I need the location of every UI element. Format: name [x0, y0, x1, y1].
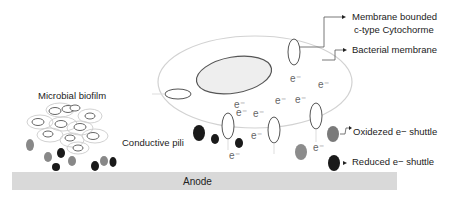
cytochrome-label-line1: Membrane bounded	[352, 11, 437, 22]
oxidized-shuttle-label: Oxidezed e− shuttle	[353, 126, 437, 137]
cytochrome-1	[222, 113, 234, 139]
arrowhead	[349, 126, 352, 130]
reduced-shuttle-legend	[328, 155, 340, 171]
anode-label: Anode	[183, 176, 212, 187]
electron: e⁻	[290, 73, 301, 84]
cytochrome-label-line2: c-type Cytochorme	[354, 24, 434, 35]
arrowhead	[343, 48, 347, 52]
cytochrome-3	[310, 103, 322, 129]
microbial-biofilm-label: Microbial biofilm	[38, 90, 106, 101]
electron: e⁻	[236, 107, 247, 118]
oxidized-shuttle	[295, 144, 307, 160]
electron: e⁻	[229, 150, 240, 161]
electron: e⁻	[275, 95, 286, 106]
cytochrome-2	[268, 117, 280, 143]
electron: e⁻	[295, 94, 306, 105]
electron: e⁻	[253, 108, 264, 119]
biofilm-shuttles	[26, 139, 117, 171]
arrowhead	[342, 15, 346, 19]
oxidized-callout-line	[340, 128, 349, 134]
cytochrome-top	[288, 39, 300, 65]
bioelectrochemical-diagram: Anode e⁻ e⁻ e⁻ e⁻ e⁻ e⁻ e⁻ e⁻ e⁻ e⁻ Memb…	[0, 0, 449, 198]
electron: e⁻	[313, 142, 324, 153]
bacterial-membrane-label: Bacterial membrane	[352, 44, 437, 55]
biofilm-cluster	[27, 103, 108, 154]
reduced-shuttle	[211, 134, 219, 144]
small-vesicle	[165, 89, 191, 99]
reduced-shuttle	[193, 125, 205, 141]
electron: e⁻	[318, 79, 329, 90]
reduced-shuttle	[235, 138, 243, 148]
cell-inner-body	[193, 51, 274, 100]
electron: e⁻	[251, 130, 262, 141]
oxidized-shuttle-legend	[327, 126, 339, 142]
reduced-shuttle-label: Reduced e− shuttle	[352, 156, 434, 167]
conductive-pili-label: Conductive pili	[122, 137, 184, 148]
arrowhead	[343, 161, 347, 165]
